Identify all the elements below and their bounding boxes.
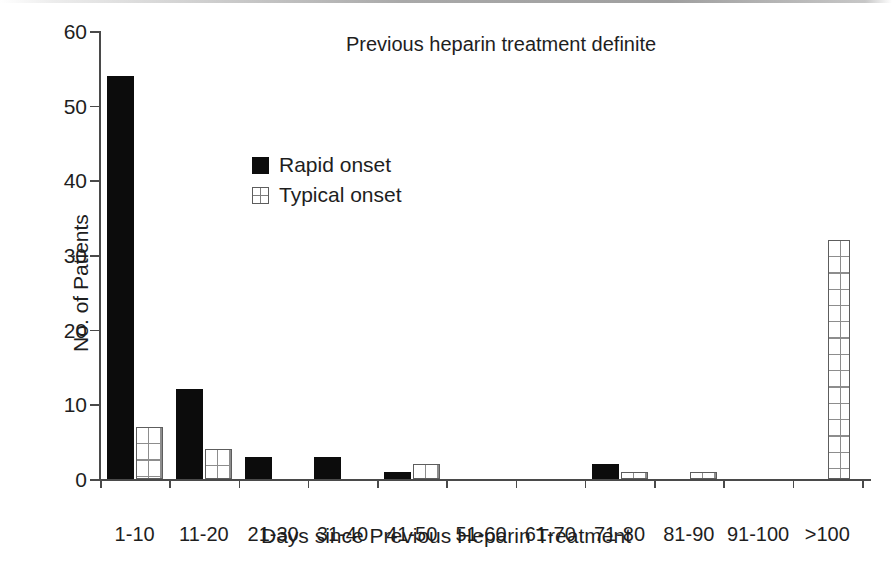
y-tick-40: [90, 180, 99, 182]
bar-typical-onset: [828, 240, 850, 479]
y-tick-60: [90, 31, 99, 33]
bar-typical-onset: [621, 472, 648, 479]
y-tick-label-40: 40: [64, 170, 87, 191]
x-tick-label: 1-10: [100, 523, 169, 546]
legend-label-rapid-onset: Rapid onset: [279, 153, 391, 177]
bar-rapid-onset: [107, 76, 134, 479]
x-tick-8: [654, 479, 656, 488]
bar-group: [100, 31, 169, 479]
chart-legend: Rapid onset Typical onset: [252, 150, 402, 210]
bar-typical-onset: [205, 449, 232, 479]
bar-group: [239, 31, 308, 479]
y-tick-label-60: 60: [64, 21, 87, 42]
bar-rapid-onset: [384, 472, 411, 479]
bar-rapid-onset: [314, 457, 341, 479]
x-tick-6: [516, 479, 518, 488]
x-tick-1: [169, 479, 171, 488]
x-tick-3: [308, 479, 310, 488]
x-tick-11: [862, 479, 864, 488]
x-tick-9: [723, 479, 725, 488]
legend-item-typical-onset: Typical onset: [252, 180, 402, 210]
y-tick-30: [90, 255, 99, 257]
y-tick-0: [90, 479, 99, 481]
x-tick-label: 91-100: [723, 523, 792, 546]
x-tick-label: 71-80: [585, 523, 654, 546]
y-tick-10: [90, 404, 99, 406]
bar-group: [585, 31, 654, 479]
x-tick-label: 31-40: [308, 523, 377, 546]
y-tick-label-50: 50: [64, 95, 87, 116]
bar-group: [446, 31, 515, 479]
x-tick-5: [446, 479, 448, 488]
x-tick-label: >100: [793, 523, 862, 546]
y-tick-50: [90, 106, 99, 108]
bar-typical-onset: [690, 472, 717, 479]
y-tick-label-20: 20: [64, 319, 87, 340]
bar-group: [308, 31, 377, 479]
legend-item-rapid-onset: Rapid onset: [252, 150, 402, 180]
y-tick-20: [90, 330, 99, 332]
y-tick-label-10: 10: [64, 394, 87, 415]
x-axis-line: [99, 479, 871, 481]
x-tick-10: [793, 479, 795, 488]
y-tick-label-0: 0: [75, 469, 87, 490]
x-tick-label: 61-70: [516, 523, 585, 546]
x-tick-label: 21-30: [239, 523, 308, 546]
bar-group: [516, 31, 585, 479]
bar-typical-onset: [413, 464, 440, 479]
bar-typical-onset: [136, 427, 163, 479]
bar-group: [793, 31, 862, 479]
legend-label-typical-onset: Typical onset: [279, 183, 402, 207]
bar-group: [723, 31, 792, 479]
x-tick-2: [239, 479, 241, 488]
scan-artifact-line: [0, 0, 892, 3]
chart-figure: Previous heparin treatment definite No. …: [0, 0, 892, 566]
x-tick-4: [377, 479, 379, 488]
x-tick-label: 41-50: [377, 523, 446, 546]
bar-group: [377, 31, 446, 479]
bar-rapid-onset: [592, 464, 619, 479]
legend-swatch-rapid-onset: [252, 157, 269, 174]
bar-group: [169, 31, 238, 479]
plot-area: 01020304050601-1011-2021-3031-4041-5051-…: [100, 31, 862, 479]
x-tick-label: 81-90: [654, 523, 723, 546]
x-tick-label: 51-60: [446, 523, 515, 546]
bar-rapid-onset: [245, 457, 272, 479]
bar-group: [654, 31, 723, 479]
bar-rapid-onset: [176, 389, 203, 479]
x-tick-0: [100, 479, 102, 488]
legend-swatch-typical-onset: [252, 187, 269, 204]
x-tick-label: 11-20: [169, 523, 238, 546]
y-tick-label-30: 30: [64, 245, 87, 266]
x-tick-7: [585, 479, 587, 488]
